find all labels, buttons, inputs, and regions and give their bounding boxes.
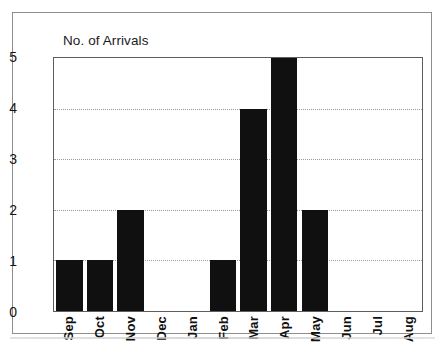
bar-mar[interactable] (240, 109, 266, 311)
y-tick-label: 1 (0, 254, 17, 268)
plot-area (53, 57, 423, 312)
bar-slot-dec (146, 58, 177, 311)
bar-slot-aug (391, 58, 422, 311)
bar-may[interactable] (302, 210, 328, 311)
bar-sep[interactable] (56, 260, 82, 311)
y-tick-label: 4 (0, 101, 17, 115)
bar-apr[interactable] (271, 58, 297, 311)
x-tick-slot: Sep (53, 314, 84, 352)
bar-nov[interactable] (117, 210, 143, 311)
chart-title: No. of Arrivals (63, 33, 149, 48)
x-tick-slot: Oct (84, 314, 115, 352)
y-tick-label: 3 (0, 152, 17, 166)
bar-feb[interactable] (210, 260, 236, 311)
bar-slot-jun (330, 58, 361, 311)
plot-inner (54, 58, 422, 311)
bar-slot-sep (54, 58, 85, 311)
x-tick-slot: Jul (361, 314, 392, 352)
bar-oct[interactable] (87, 260, 113, 311)
x-tick-slot: Nov (115, 314, 146, 352)
bar-slot-feb (207, 58, 238, 311)
bar-slot-jan (177, 58, 208, 311)
x-tick-slot: Aug (392, 314, 423, 352)
x-tick-slot: Mar (238, 314, 269, 352)
x-tick-label-jan: Jan (184, 316, 199, 339)
y-tick-label: 5 (0, 50, 17, 64)
y-tick-label: 0 (0, 305, 17, 319)
x-tick-slot: Dec (145, 314, 176, 352)
scan-artifact (10, 337, 435, 339)
figure-frame: No. of Arrivals 012345 SepOctNovDecJanFe… (12, 12, 432, 334)
x-tick-label-apr: Apr (277, 316, 292, 339)
bar-slot-may (299, 58, 330, 311)
x-tick-slot: Jan (176, 314, 207, 352)
bars-layer (54, 58, 422, 311)
bar-slot-apr (269, 58, 300, 311)
x-tick-label-oct: Oct (92, 316, 107, 338)
bar-slot-mar (238, 58, 269, 311)
bar-slot-nov (115, 58, 146, 311)
x-tick-slot: Feb (207, 314, 238, 352)
x-tick-slot: May (300, 314, 331, 352)
x-tick-label-jul: Jul (369, 316, 384, 335)
bar-slot-jul (361, 58, 392, 311)
x-axis-labels: SepOctNovDecJanFebMarAprMayJunJulAug (53, 314, 423, 352)
x-tick-slot: Jun (330, 314, 361, 352)
x-tick-slot: Apr (269, 314, 300, 352)
y-tick-label: 2 (0, 203, 17, 217)
bar-slot-oct (85, 58, 116, 311)
